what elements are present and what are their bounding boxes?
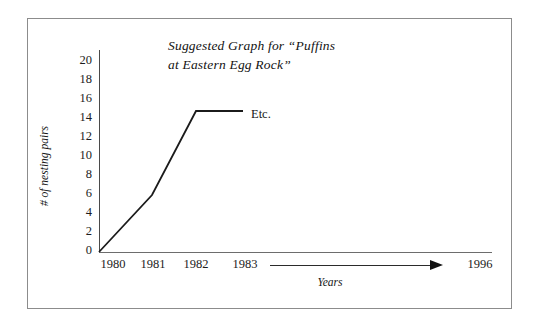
x-axis-caption: Years [300,276,360,288]
y-tick-label-16: 16 [58,92,92,105]
year-continuation-line [270,265,433,266]
y-tick-label-20: 20 [58,54,92,67]
x-tick-label-1981: 1981 [129,258,177,271]
year-continuation-arrow-icon [430,260,443,270]
y-axis-caption: # of nesting pairs [38,106,50,226]
x-tick-label-1996: 1996 [456,258,504,271]
y-tick-label-18: 18 [58,73,92,86]
y-tick-label-2: 2 [58,225,92,238]
plot-area: 20 18 16 14 12 10 8 6 4 2 0 # of nesting… [0,0,539,325]
y-tick-label-0: 0 [58,244,92,257]
x-tick-label-1983: 1983 [221,258,269,271]
data-series [0,0,539,325]
x-tick-label-1982: 1982 [172,258,220,271]
y-tick-label-6: 6 [58,187,92,200]
y-tick-label-8: 8 [58,168,92,181]
y-tick-label-4: 4 [58,206,92,219]
figure-page: Suggested Graph for “Puffins at Eastern … [0,0,539,325]
etc-annotation: Etc. [251,107,271,122]
nesting-pairs-polyline [99,111,243,252]
x-axis-line [99,252,492,253]
y-tick-label-14: 14 [58,111,92,124]
y-tick-label-10: 10 [58,149,92,162]
y-tick-label-12: 12 [58,130,92,143]
y-axis-line [99,50,100,252]
